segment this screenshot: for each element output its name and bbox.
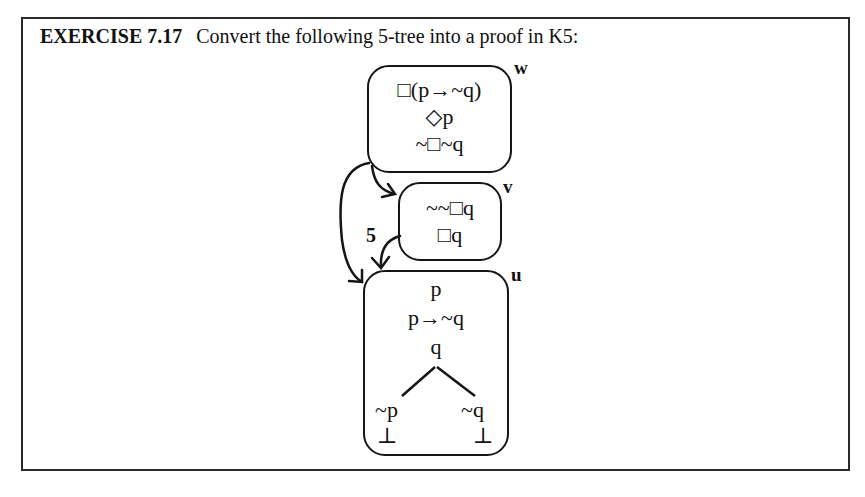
world-u-box: p p→~q q ~p ⊥ ~q ⊥ bbox=[363, 270, 509, 456]
arrow-5-label: 5 bbox=[366, 224, 376, 246]
world-v-box: ~~□q □q bbox=[398, 182, 502, 261]
world-u-label: u bbox=[511, 265, 522, 285]
world-w-label: w bbox=[514, 58, 528, 78]
world-w-formula-1: □(p→~q) bbox=[369, 76, 510, 103]
branch-left-formula: ~p bbox=[375, 398, 398, 422]
exercise-instruction: Convert the following 5-tree into a proo… bbox=[196, 25, 578, 47]
world-u-formula-2: p→~q bbox=[365, 304, 507, 331]
branch-right-formula: ~q bbox=[461, 398, 484, 422]
world-u-formula-3: q bbox=[365, 333, 507, 360]
world-v-formula-2: □q bbox=[400, 221, 500, 248]
world-w-formula-2: ◇p bbox=[369, 103, 510, 130]
world-w-formula-3: ~□~q bbox=[369, 130, 510, 157]
world-u-formula-1: p bbox=[365, 275, 507, 302]
world-w-box: □(p→~q) ◇p ~□~q bbox=[367, 65, 512, 173]
branch-right-closure: ⊥ bbox=[473, 424, 494, 448]
world-v-label: v bbox=[503, 177, 513, 197]
exercise-number: EXERCISE 7.17 bbox=[40, 25, 182, 47]
exercise-heading: EXERCISE 7.17Convert the following 5-tre… bbox=[40, 24, 578, 48]
world-v-formula-1: ~~□q bbox=[400, 194, 500, 221]
branch-left-closure: ⊥ bbox=[377, 424, 398, 448]
